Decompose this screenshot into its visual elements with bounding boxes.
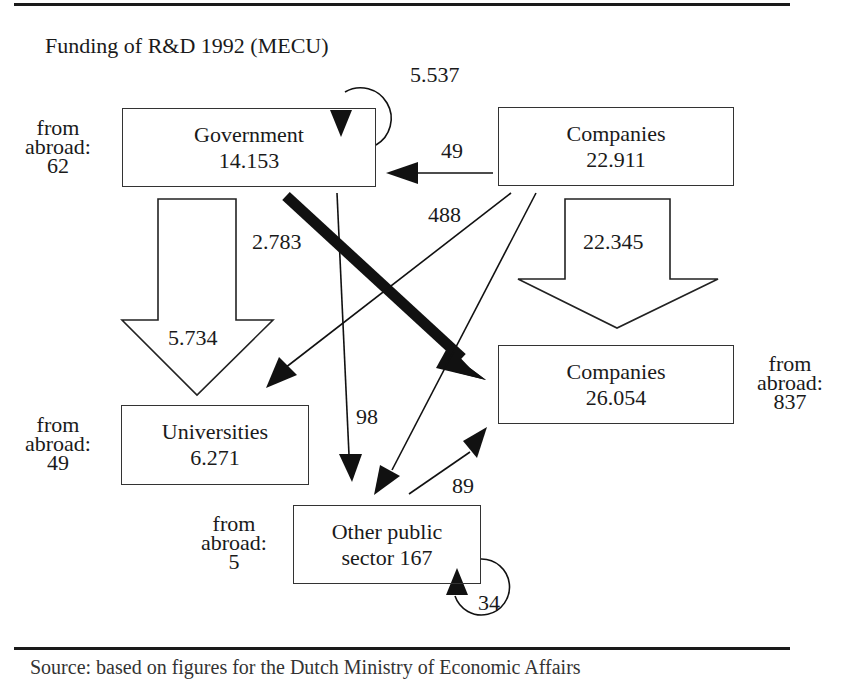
- univ-abroad: from abroad: 49: [20, 415, 96, 472]
- node-name: Companies: [567, 121, 666, 147]
- gov-abroad: from abroad: 62: [20, 118, 96, 175]
- flow-label-other-self: 34: [478, 592, 500, 614]
- node-universities: Universities 6.271: [121, 405, 309, 485]
- node-name: Companies: [567, 359, 666, 385]
- node-companies-target: Companies 26.054: [498, 345, 734, 424]
- flow-label-comp-to-comp: 22.345: [583, 231, 644, 253]
- node-companies-source: Companies 22.911: [498, 107, 734, 186]
- node-name: Universities: [162, 419, 268, 445]
- abroad-label: from abroad:: [20, 415, 96, 453]
- node-value: 14.153: [219, 148, 280, 174]
- abroad-label: from abroad:: [196, 514, 272, 552]
- abroad-label: from abroad:: [20, 118, 96, 156]
- node-name-line2: sector 167: [341, 545, 432, 571]
- flow-label-other-to-comp: 89: [452, 475, 474, 497]
- node-name: Government: [194, 122, 304, 148]
- gov-to-univ-block-arrow: [122, 199, 273, 395]
- node-value: 26.054: [586, 385, 647, 411]
- node-other-public: Other public sector 167: [293, 505, 481, 584]
- abroad-label: from abroad:: [752, 354, 828, 392]
- comp-to-other-arrow: [374, 193, 536, 495]
- flow-label-comp-to-gov: 49: [441, 140, 463, 162]
- flow-label-gov-self: 5.537: [410, 64, 460, 86]
- comp-to-gov-arrow: [386, 162, 493, 184]
- node-value: 22.911: [586, 147, 646, 173]
- flow-label-comp-to-univ: 488: [428, 204, 461, 226]
- comp-abroad: from abroad: 837: [752, 354, 828, 411]
- node-name: Other public: [332, 519, 443, 545]
- other-to-comp-arrow: [409, 427, 487, 494]
- flow-label-gov-to-other: 98: [356, 406, 378, 428]
- comp-to-comp-block-arrow: [518, 199, 718, 328]
- source-footer: Source: based on figures for the Dutch M…: [30, 656, 581, 679]
- flow-label-gov-to-comp: 2.783: [252, 231, 302, 253]
- node-government: Government 14.153: [122, 108, 376, 187]
- other-abroad: from abroad: 5: [196, 514, 272, 571]
- node-value: 6.271: [190, 445, 240, 471]
- flow-label-gov-to-univ: 5.734: [168, 327, 218, 349]
- gov-to-other-arrow: [337, 193, 362, 482]
